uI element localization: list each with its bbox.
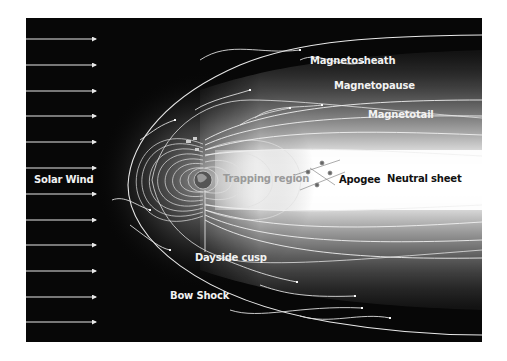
- label-magnetotail: Magnetotail: [368, 109, 434, 120]
- label-apogee: Apogee: [339, 174, 380, 185]
- label-dayside-cusp: Dayside cusp: [195, 252, 267, 263]
- label-magnetosheath: Magnetosheath: [310, 55, 395, 66]
- label-trapping-region: Trapping region: [223, 173, 309, 184]
- label-neutral-sheet: Neutral sheet: [387, 173, 461, 184]
- label-solar-wind: Solar Wind: [34, 174, 93, 185]
- label-bow-shock: Bow Shock: [170, 290, 229, 301]
- label-magnetopause: Magnetopause: [334, 80, 415, 91]
